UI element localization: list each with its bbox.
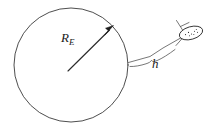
satellite	[176, 21, 204, 46]
radius-symbol: R	[61, 30, 69, 45]
radius-label: RE	[61, 31, 74, 47]
diagram-canvas	[0, 0, 211, 130]
earth-circle	[14, 8, 128, 122]
physics-diagram: RE h	[0, 0, 211, 130]
radius-subscript: E	[69, 37, 75, 47]
satellite-antenna-upper-cross	[181, 23, 190, 27]
radius-arrow-head	[105, 26, 114, 36]
height-label: h	[152, 57, 159, 70]
